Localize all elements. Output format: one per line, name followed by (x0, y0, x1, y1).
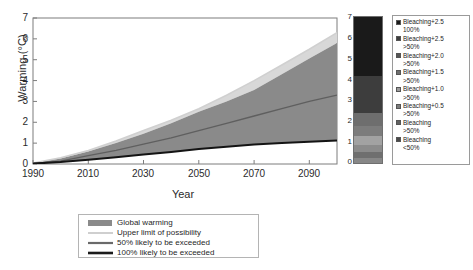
legend-label: Bleaching+2.5 (403, 35, 444, 43)
colorbar-segment (354, 113, 382, 126)
legend-label: Upper limit of possibility (117, 228, 201, 237)
y-tick-1: 1 (6, 137, 28, 148)
legend-label: 100% likely to be exceeded (117, 248, 214, 257)
x-tick-2010: 2010 (68, 168, 108, 179)
colorbar-tick-4: 4 (340, 75, 352, 84)
legend-sublabel: <50% (403, 144, 467, 152)
legend-swatch-icon (396, 36, 401, 41)
legend-item: 50% likely to be exceeded (79, 238, 258, 248)
legend-item: Bleaching (396, 136, 467, 144)
legend-label: Bleaching+1.0 (403, 85, 444, 93)
x-tick-2070: 2070 (234, 168, 274, 179)
colorbar-tick-3: 3 (340, 95, 352, 104)
series-legend: Global warming Upper limit of possibilit… (78, 214, 259, 258)
colorbar-tick-6: 6 (340, 33, 352, 42)
legend-label: Global warming (117, 218, 173, 227)
legend-item: Bleaching+2.5 (396, 18, 467, 26)
x-tick-2090: 2090 (289, 168, 329, 179)
legend-line-icon (87, 230, 113, 236)
legend-item: Bleaching (396, 119, 467, 127)
legend-label: Bleaching+0.5 (403, 102, 444, 110)
colorbar-tick-2: 2 (340, 116, 352, 125)
legend-swatch-icon (396, 70, 401, 75)
bleaching-colorbar (353, 16, 383, 164)
legend-sublabel: >50% (403, 60, 467, 68)
legend-line-icon (87, 240, 113, 246)
colorbar-segment (354, 158, 382, 164)
legend-sublabel: 100% (403, 26, 467, 34)
legend-item: Global warming (79, 218, 258, 228)
legend-item: 100% likely to be exceeded (79, 248, 258, 258)
legend-item: Bleaching+1.5 (396, 68, 467, 76)
legend-label: Bleaching+1.5 (403, 68, 444, 76)
legend-swatch-icon (396, 87, 401, 92)
y-tick-2: 2 (6, 116, 28, 127)
colorbar-segment (354, 136, 382, 145)
colorbar-tick-5: 5 (340, 54, 352, 63)
colorbar-segment (354, 126, 382, 137)
legend-sublabel: >50% (403, 110, 467, 118)
legend-swatch-icon (396, 104, 401, 109)
legend-swatch-icon (396, 20, 401, 25)
legend-label: Bleaching+2.5 (403, 18, 444, 26)
x-tick-2050: 2050 (179, 168, 219, 179)
legend-item: Bleaching+2.0 (396, 52, 467, 60)
colorbar-segment (354, 76, 382, 113)
legend-label: Bleaching (403, 119, 431, 127)
x-axis-title: Year (28, 188, 338, 200)
legend-swatch-icon (396, 137, 401, 142)
climate-warming-chart: 7 6 5 4 3 2 1 0 1990 2010 2030 2050 2070… (0, 0, 473, 270)
legend-sublabel: >50% (403, 127, 467, 135)
colorbar-segment (354, 17, 382, 76)
legend-sublabel: >50% (403, 94, 467, 102)
legend-block-icon (87, 220, 113, 226)
colorbar-tick-1: 1 (340, 137, 352, 146)
legend-sublabel: >50% (403, 77, 467, 85)
legend-label: Bleaching+2.0 (403, 52, 444, 60)
legend-sublabel: >50% (403, 43, 467, 51)
x-tick-2030: 2030 (123, 168, 163, 179)
legend-label: 50% likely to be exceeded (117, 238, 210, 247)
legend-swatch-icon (396, 120, 401, 125)
legend-item: Bleaching+2.5 (396, 35, 467, 43)
legend-label: Bleaching (403, 136, 431, 144)
colorbar-tick-7: 7 (340, 12, 352, 21)
legend-item: Upper limit of possibility (79, 228, 258, 238)
y-axis-title: Warming (°C) (16, 22, 28, 114)
x-tick-1990: 1990 (13, 168, 53, 179)
colorbar-tick-0: 0 (340, 157, 352, 166)
legend-swatch-icon (396, 53, 401, 58)
legend-line-icon (87, 250, 113, 256)
legend-item: Bleaching+1.0 (396, 85, 467, 93)
bleaching-class-legend: Bleaching+2.5 100% Bleaching+2.5 >50% Bl… (392, 15, 470, 165)
colorbar-segment (354, 145, 382, 152)
legend-item: Bleaching+0.5 (396, 102, 467, 110)
